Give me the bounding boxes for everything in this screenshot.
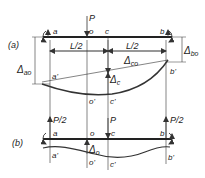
dim-left-label: L/2 (70, 41, 83, 51)
part-b: (b) P/2 P P/2 a o c b Δo a' o' c' b' (12, 115, 184, 169)
point-b: b (160, 129, 165, 138)
chord-line (42, 60, 168, 82)
point-b-prime: b' (170, 67, 176, 76)
point-c-prime: c' (110, 97, 116, 106)
delta-o-label: Δo (88, 144, 100, 156)
deflected-curve-b (43, 147, 170, 158)
point-b: b (160, 27, 165, 36)
delta-ao-label: Δao (16, 64, 32, 76)
load-center-label: P (110, 115, 116, 125)
point-o: o (90, 129, 95, 138)
point-c-prime: c' (110, 160, 116, 169)
point-a-prime: a' (52, 151, 58, 160)
point-o-prime: o' (89, 97, 95, 106)
load-left-label: P/2 (53, 115, 67, 125)
delta-co-label: Δco (123, 55, 138, 67)
point-a-prime: a' (52, 72, 58, 81)
point-o-prime: o' (89, 158, 95, 167)
part-b-label: (b) (12, 138, 23, 148)
part-a-label: (a) (8, 40, 19, 50)
point-c: c (111, 129, 115, 138)
point-a: a (53, 27, 58, 36)
part-a: (a) P a o c b L/2 L/2 Δao Δbo (8, 13, 199, 106)
point-o: o (89, 27, 94, 36)
point-b-prime: b' (168, 153, 174, 162)
delta-bo-label: Δbo (183, 45, 199, 57)
delta-c-label: Δc (109, 74, 121, 86)
point-c: c (105, 27, 109, 36)
beam-deflection-diagram: (a) P a o c b L/2 L/2 Δao Δbo (0, 0, 205, 178)
load-right-label: P/2 (170, 115, 184, 125)
load-label: P (89, 13, 95, 23)
point-a: a (53, 129, 58, 138)
deflected-curve-a (42, 60, 168, 95)
dim-right-label: L/2 (126, 41, 139, 51)
